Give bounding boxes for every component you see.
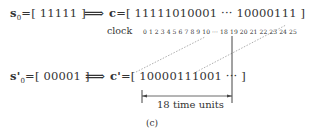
row2-implies-arrow: ⟹ xyxy=(85,68,105,84)
seed-symbol: s xyxy=(10,6,17,20)
clock-label: clock xyxy=(107,25,132,36)
figure-caption: (c) xyxy=(146,118,158,128)
output-sequence-prime: =[ 10000111001 ··· ] xyxy=(121,69,246,83)
clock-ticks: 0 1 2 3 4 5 6 7 8 9 10 ··· 18 19 20 21 2… xyxy=(143,28,297,35)
output-symbol-prime: c' xyxy=(110,69,121,83)
seed-value: =[ 11111 ] xyxy=(21,6,86,20)
arrowhead-left-icon xyxy=(142,95,147,98)
arrowhead-right-icon xyxy=(227,95,232,98)
seed-symbol-prime: s' xyxy=(10,69,20,83)
output-sequence: =[ 11111010001 ··· 10000111 ] xyxy=(116,6,305,20)
row1-seed: s0=[ 11111 ] xyxy=(10,6,86,22)
row2-output: c'=[ 10000111001 ··· ] xyxy=(110,69,246,83)
row2-seed: s'0=[ 00001 ] xyxy=(10,69,90,85)
dashed-connector-left xyxy=(136,37,205,72)
seed-value-prime: =[ 00001 ] xyxy=(25,69,90,83)
row1-implies-arrow: ⟹ xyxy=(84,5,104,21)
span-label: 18 time units xyxy=(157,99,224,110)
row1-output: c=[ 11111010001 ··· 10000111 ] xyxy=(109,6,305,20)
